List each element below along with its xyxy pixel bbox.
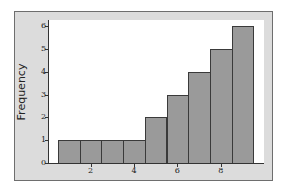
histogram-bar <box>232 26 255 164</box>
histogram-bar <box>58 140 81 164</box>
y-tick-label: 6 <box>38 22 46 30</box>
y-tick-label: 3 <box>38 91 46 99</box>
y-axis <box>48 20 49 164</box>
y-tick-label: 2 <box>38 113 46 121</box>
y-tick-label: 5 <box>38 45 46 53</box>
x-tick-label: 6 <box>171 166 183 175</box>
histogram-bar <box>210 49 233 164</box>
histogram-bar <box>188 72 211 164</box>
y-tick-label: 1 <box>38 136 46 144</box>
x-axis <box>48 163 264 164</box>
x-tick-label: 4 <box>128 166 140 175</box>
histogram-bar <box>123 140 146 164</box>
x-tick-label: 2 <box>85 166 97 175</box>
x-tick-label: 8 <box>215 166 227 175</box>
y-tick-label: 0 <box>38 159 46 167</box>
y-tick-label: 4 <box>38 68 46 76</box>
histogram-bar <box>145 117 168 164</box>
histogram-bar <box>80 140 103 164</box>
histogram-bar <box>167 95 190 164</box>
histogram-bar <box>101 140 124 164</box>
y-axis-title: Frequency <box>15 64 28 121</box>
